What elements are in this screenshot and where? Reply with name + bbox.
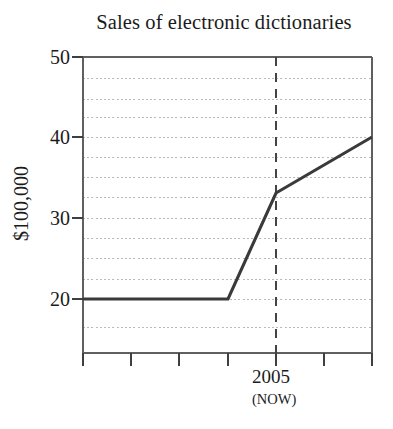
chart-figure: Sales of electronic dictionaries $100,00… (0, 0, 393, 429)
y-axis-ticks (72, 57, 83, 299)
x-axis-ticks (83, 353, 372, 366)
plot-area (0, 0, 393, 429)
gridlines-horizontal (83, 78, 372, 327)
plot-frame (83, 57, 372, 353)
